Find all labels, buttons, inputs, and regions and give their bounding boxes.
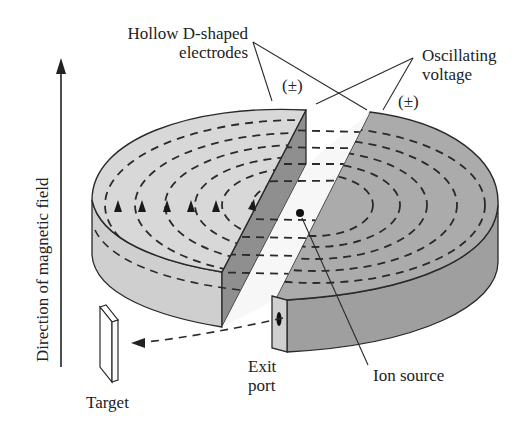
magnetic-field-arrow — [56, 58, 66, 367]
label-voltage-line2: voltage — [422, 65, 497, 84]
label-polarity-right: (±) — [398, 92, 419, 111]
beam-arrow-icon — [131, 338, 145, 348]
target — [100, 305, 118, 382]
label-electrodes-line1: Hollow D-shaped — [100, 24, 248, 43]
label-ion-source: Ion source — [373, 366, 444, 385]
label-voltage: Oscillating voltage — [422, 46, 497, 84]
label-electrodes: Hollow D-shaped electrodes — [100, 24, 248, 62]
label-polarity-left: (±) — [282, 76, 303, 95]
exit-port — [272, 296, 287, 352]
label-voltage-line1: Oscillating — [422, 46, 497, 65]
label-magnetic-field: Direction of magnetic field — [33, 177, 53, 362]
cyclotron-diagram: Hollow D-shaped electrodes Oscillating v… — [0, 0, 532, 427]
label-exit-line1: Exit — [248, 357, 276, 376]
label-exit-port: Exit port — [248, 357, 276, 395]
label-target: Target — [86, 393, 129, 412]
electrodes-leaders — [253, 42, 367, 110]
label-exit-line2: port — [248, 376, 276, 395]
label-electrodes-line2: electrodes — [100, 43, 248, 62]
